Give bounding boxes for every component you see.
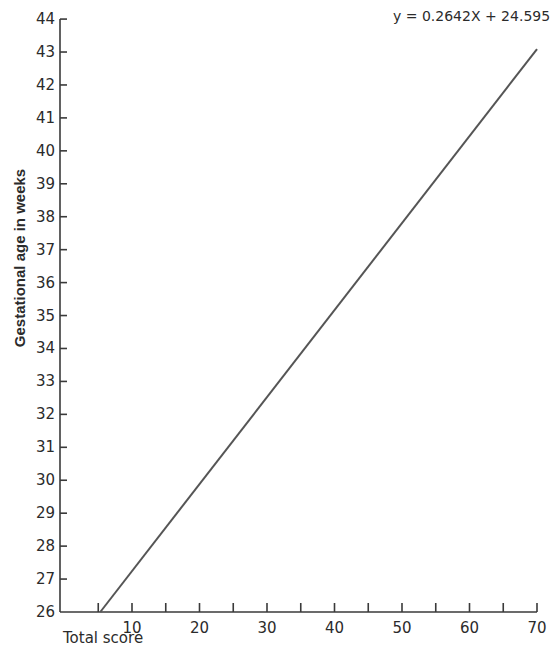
y-tick-label: 44 [36,10,55,28]
y-tick-label: 38 [36,208,55,226]
y-tick-label: 32 [36,405,55,423]
y-tick-label: 29 [36,504,55,522]
ticks: 2627282930313233343536373839404142434410… [36,10,547,637]
y-tick-label: 33 [36,372,55,390]
y-tick-label: 42 [36,76,55,94]
y-tick-label: 30 [36,471,55,489]
axes [60,19,537,612]
y-tick-label: 36 [36,274,55,292]
x-tick-label: 50 [392,619,411,637]
y-tick-label: 43 [36,43,55,61]
y-tick-label: 40 [36,142,55,160]
x-tick-label: 20 [190,619,209,637]
x-axis-title: Total score [62,629,143,647]
regression-line [100,49,537,612]
line-chart: 2627282930313233343536373839404142434410… [0,0,551,656]
y-tick-label: 39 [36,175,55,193]
x-tick-label: 40 [325,619,344,637]
y-tick-label: 27 [36,570,55,588]
y-tick-label: 41 [36,109,55,127]
y-tick-label: 31 [36,438,55,456]
y-axis-title: Gestational age in weeks [11,169,28,347]
y-tick-label: 26 [36,603,55,621]
equation-label: y = 0.2642X + 24.595 [393,8,550,24]
x-tick-label: 70 [527,619,546,637]
x-tick-label: 60 [460,619,479,637]
x-tick-label: 30 [257,619,276,637]
y-tick-label: 34 [36,339,55,357]
y-tick-label: 28 [36,537,55,555]
regression-line-path [100,49,537,612]
y-tick-label: 35 [36,307,55,325]
y-tick-label: 37 [36,241,55,259]
